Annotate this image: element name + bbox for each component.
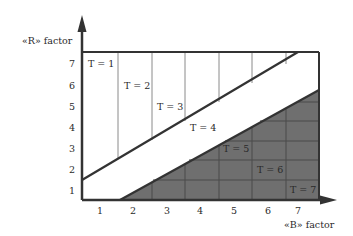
- y-axis-label: «R» factor: [22, 35, 73, 46]
- y-tick: 7: [69, 58, 75, 69]
- x-tick-labels: 1 2 3 4 5 6 7: [97, 205, 301, 216]
- x-tick: 4: [197, 205, 203, 216]
- x-tick: 1: [97, 205, 103, 216]
- x-axis-label: «B» factor: [284, 219, 335, 230]
- x-tick: 7: [295, 205, 301, 216]
- region-label-t7: T = 7: [290, 184, 316, 195]
- x-tick: 3: [164, 205, 170, 216]
- region-label-t4: T = 4: [190, 122, 216, 133]
- region-label-t1: T = 1: [88, 58, 114, 69]
- region-label-t6: T = 6: [257, 164, 283, 175]
- zone-diagram: «R» factor «B» factor 1 2 3 4 5 6 7 1 2 …: [0, 0, 353, 236]
- y-tick: 1: [69, 185, 75, 196]
- y-tick: 5: [69, 101, 75, 112]
- x-tick: 5: [231, 205, 237, 216]
- x-tick: 2: [130, 205, 136, 216]
- y-tick: 4: [69, 122, 75, 133]
- y-tick-labels: 1 2 3 4 5 6 7: [69, 58, 75, 196]
- x-tick: 6: [265, 205, 271, 216]
- y-tick: 2: [69, 164, 75, 175]
- region-label-t2: T = 2: [124, 80, 150, 91]
- x-axis-arrow-icon: [320, 196, 337, 205]
- region-label-t3: T = 3: [157, 101, 183, 112]
- region-label-t5: T = 5: [223, 143, 249, 154]
- y-axis-arrow-icon: [78, 15, 87, 32]
- y-tick: 3: [69, 143, 75, 154]
- y-tick: 6: [69, 80, 75, 91]
